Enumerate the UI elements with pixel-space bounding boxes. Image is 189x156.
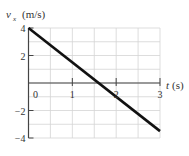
x-tick-label: 2 (114, 89, 119, 100)
x-tick-label: 0 (33, 89, 38, 100)
velocity-time-graph: v x (m/s) t (s) 012342−2−4 (0, 0, 189, 156)
y-axis-label-unit: (m/s) (22, 8, 46, 21)
x-tick-label: 1 (70, 89, 75, 100)
y-tick-label: −2 (15, 106, 26, 117)
x-tick-label: 3 (158, 89, 163, 100)
y-tick-label: 4 (21, 23, 26, 34)
y-axis-label-var: v (6, 8, 11, 20)
x-axis-label-var: t (166, 79, 170, 91)
x-axis-label-unit: (s) (172, 79, 184, 92)
y-tick-label: −4 (15, 133, 26, 144)
y-tick-label: 2 (21, 51, 26, 62)
y-axis-label-sub: x (12, 15, 17, 23)
